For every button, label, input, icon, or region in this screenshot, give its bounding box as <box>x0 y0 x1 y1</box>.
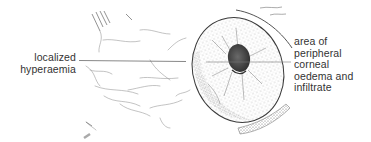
label-right-line-5: infiltrate <box>294 82 370 94</box>
label-localized-hyperaemia: localized hyperaemia <box>4 52 76 75</box>
label-right-line-1: area of <box>294 36 370 48</box>
eye-diagram: localized hyperaemia area of peripheral … <box>0 0 371 142</box>
leader-line-left <box>79 61 186 62</box>
label-peripheral-corneal-oedema: area of peripheral corneal oedema and in… <box>294 36 370 94</box>
label-right-line-3: corneal <box>294 59 370 71</box>
conjunctival-vessels <box>86 30 190 130</box>
label-left-line-2: hyperaemia <box>4 64 76 76</box>
eyelashes <box>92 11 132 31</box>
label-left-line-1: localized <box>4 52 76 64</box>
